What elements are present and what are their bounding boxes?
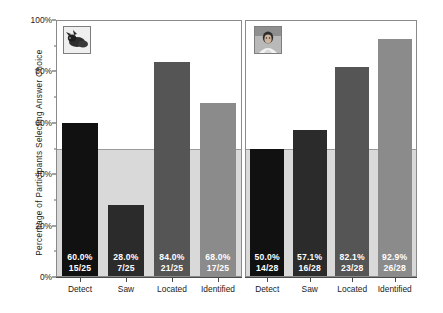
bar-saw[interactable]: 57.1%16/28 xyxy=(293,130,327,276)
bar-value-label: 84.0%21/25 xyxy=(154,252,191,273)
bar-percent-label: 60.0% xyxy=(62,252,99,263)
bar-fraction-label: 21/25 xyxy=(154,263,191,274)
x-tick-mark xyxy=(218,278,219,282)
x-axis-line xyxy=(56,277,242,278)
bar-fraction-label: 15/25 xyxy=(62,263,99,274)
bar-detect[interactable]: 50.0%14/28 xyxy=(250,149,284,277)
bar-group: 60.0%15/2528.0%7/2584.0%21/2568.0%17/25 xyxy=(57,21,241,276)
x-tick-label-identified: Identified xyxy=(378,284,412,294)
x-tick-mark xyxy=(126,278,127,282)
bar-fraction-label: 16/28 xyxy=(293,263,327,274)
x-tick-mark xyxy=(395,278,396,282)
panel-person: 50.0%14/2857.1%16/2882.1%23/2892.9%26/28 xyxy=(245,20,417,277)
x-tick-label-identified: Identified xyxy=(201,284,235,294)
bar-fraction-label: 23/28 xyxy=(335,263,369,274)
bar-percent-label: 92.9% xyxy=(378,252,412,263)
x-tick-mark xyxy=(172,278,173,282)
y-tick-label: 0% xyxy=(40,272,52,282)
y-axis: 0%20%40%60%80%100% xyxy=(0,0,56,313)
bar-percent-label: 28.0% xyxy=(108,252,145,263)
x-tick-mark xyxy=(267,278,268,282)
bar-fraction-label: 14/28 xyxy=(250,263,284,274)
bar-fraction-label: 7/25 xyxy=(108,263,145,274)
bar-percent-label: 50.0% xyxy=(250,252,284,263)
bar-chart-figure: Percentage of Participants Selecting Ans… xyxy=(0,0,443,313)
bar-value-label: 92.9%26/28 xyxy=(378,252,412,273)
x-tick-label-saw: Saw xyxy=(302,284,318,294)
x-tick-label-located: Located xyxy=(157,284,187,294)
bar-value-label: 28.0%7/25 xyxy=(108,252,145,273)
x-tick-label-located: Located xyxy=(337,284,367,294)
bar-fraction-label: 26/28 xyxy=(378,263,412,274)
x-tick-mark xyxy=(352,278,353,282)
bar-value-label: 50.0%14/28 xyxy=(250,252,284,273)
bar-fraction-label: 17/25 xyxy=(200,263,237,274)
bar-saw[interactable]: 28.0%7/25 xyxy=(108,205,145,276)
y-tick-label: 60% xyxy=(35,118,52,128)
y-tick-label: 100% xyxy=(31,15,52,25)
bar-group: 50.0%14/2857.1%16/2882.1%23/2892.9%26/28 xyxy=(246,21,416,276)
bar-identified[interactable]: 92.9%26/28 xyxy=(378,39,412,276)
bar-identified[interactable]: 68.0%17/25 xyxy=(200,103,237,276)
bar-value-label: 60.0%15/25 xyxy=(62,252,99,273)
bar-value-label: 82.1%23/28 xyxy=(335,252,369,273)
x-tick-label-saw: Saw xyxy=(118,284,134,294)
x-tick-label-detect: Detect xyxy=(255,284,279,294)
bar-percent-label: 68.0% xyxy=(200,252,237,263)
y-tick-label: 40% xyxy=(35,169,52,179)
panel-animal: 60.0%15/2528.0%7/2584.0%21/2568.0%17/25 xyxy=(56,20,242,277)
y-tick-label: 20% xyxy=(35,221,52,231)
bar-detect[interactable]: 60.0%15/25 xyxy=(62,123,99,276)
x-tick-label-detect: Detect xyxy=(68,284,92,294)
y-tick-label: 80% xyxy=(35,66,52,76)
bar-located[interactable]: 82.1%23/28 xyxy=(335,67,369,276)
bar-located[interactable]: 84.0%21/25 xyxy=(154,62,191,276)
bar-value-label: 57.1%16/28 xyxy=(293,252,327,273)
bar-percent-label: 84.0% xyxy=(154,252,191,263)
bar-percent-label: 57.1% xyxy=(293,252,327,263)
x-tick-mark xyxy=(310,278,311,282)
x-tick-mark xyxy=(80,278,81,282)
x-axis-line xyxy=(245,277,417,278)
bar-percent-label: 82.1% xyxy=(335,252,369,263)
bar-value-label: 68.0%17/25 xyxy=(200,252,237,273)
